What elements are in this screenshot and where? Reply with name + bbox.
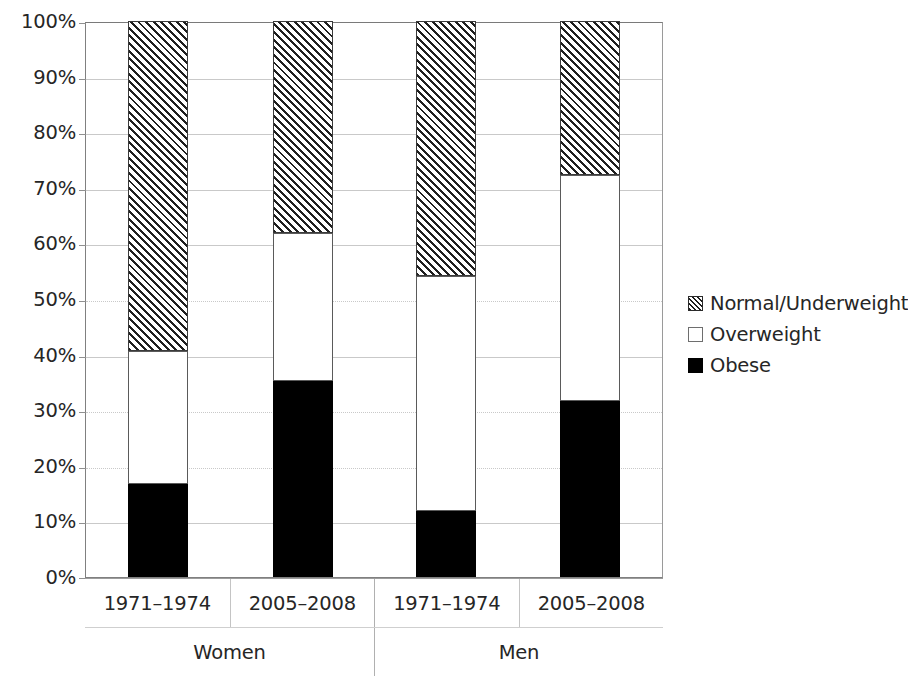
y-tick-label: 20% <box>8 457 76 477</box>
y-tickmark-40 <box>79 357 86 358</box>
y-tickmark-60 <box>79 245 86 246</box>
x-group-label-women: Women <box>85 628 374 676</box>
legend-item-normal-underweight[interactable]: Normal/Underweight <box>688 288 896 319</box>
white-swatch-icon <box>688 327 703 342</box>
y-tickmark-80 <box>79 134 86 135</box>
bar-segment-normal-underweight[interactable] <box>273 21 333 233</box>
y-tick-label: 80% <box>8 123 76 143</box>
x-axis-period-tier: 1971–1974 2005–2008 1971–1974 2005–2008 <box>85 578 663 628</box>
hatch-swatch-icon <box>688 296 703 311</box>
y-tick-label: 70% <box>8 179 76 199</box>
bar-men-2005-2008[interactable] <box>560 21 620 577</box>
x-tick-label-men-2005-2008: 2005–2008 <box>519 579 664 627</box>
legend-label: Overweight <box>710 325 821 345</box>
legend-label: Obese <box>710 356 771 376</box>
y-tickmark-10 <box>79 523 86 524</box>
y-tick-label: 100% <box>8 12 76 32</box>
bar-women-1971-1974[interactable] <box>128 21 188 577</box>
bar-segment-obese[interactable] <box>416 511 476 577</box>
y-tickmark-100 <box>79 23 86 24</box>
bar-segment-normal-underweight[interactable] <box>416 21 476 276</box>
y-tickmark-70 <box>79 190 86 191</box>
x-tick-label-women-2005-2008: 2005–2008 <box>230 579 375 627</box>
y-tickmark-90 <box>79 79 86 80</box>
bar-segment-overweight[interactable] <box>128 351 188 484</box>
bar-segment-obese[interactable] <box>273 381 333 577</box>
y-tick-label: 0% <box>8 568 76 588</box>
y-tickmark-30 <box>79 412 86 413</box>
plot-area <box>85 22 663 578</box>
bar-segment-normal-underweight[interactable] <box>560 21 620 175</box>
bar-segment-obese[interactable] <box>560 401 620 577</box>
y-tick-label: 50% <box>8 290 76 310</box>
y-tick-label: 90% <box>8 68 76 88</box>
bar-segment-overweight[interactable] <box>560 175 620 401</box>
x-tick-label-men-1971-1974: 1971–1974 <box>374 579 519 627</box>
bar-segment-overweight[interactable] <box>416 276 476 511</box>
x-axis-group-tier: Women Men <box>85 628 663 676</box>
y-tick-label: 60% <box>8 235 76 255</box>
bar-segment-obese[interactable] <box>128 484 188 577</box>
y-tickmark-50 <box>79 301 86 302</box>
x-group-label-men: Men <box>374 628 663 676</box>
y-tick-label: 40% <box>8 346 76 366</box>
legend: Normal/Underweight Overweight Obese <box>688 288 896 381</box>
y-tick-label: 30% <box>8 401 76 421</box>
bar-segment-overweight[interactable] <box>273 233 333 380</box>
y-tickmark-20 <box>79 468 86 469</box>
bar-men-1971-1974[interactable] <box>416 21 476 577</box>
legend-item-obese[interactable]: Obese <box>688 350 896 381</box>
legend-item-overweight[interactable]: Overweight <box>688 319 896 350</box>
bar-segment-normal-underweight[interactable] <box>128 21 188 351</box>
y-axis: 100% 90% 80% 70% 60% 50% 40% 30% 20% 10%… <box>0 0 76 677</box>
legend-label: Normal/Underweight <box>710 294 908 314</box>
bar-women-2005-2008[interactable] <box>273 21 333 577</box>
black-swatch-icon <box>688 358 703 373</box>
x-tick-label-women-1971-1974: 1971–1974 <box>85 579 230 627</box>
x-axis: 1971–1974 2005–2008 1971–1974 2005–2008 … <box>85 578 663 676</box>
y-tick-label: 10% <box>8 513 76 533</box>
